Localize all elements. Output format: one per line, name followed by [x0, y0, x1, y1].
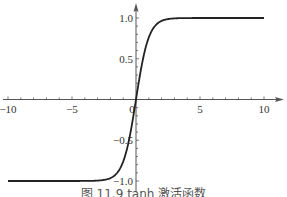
- x-tick-label: −5: [66, 103, 78, 115]
- y-tick-label: 1.0: [119, 12, 133, 24]
- x-tick-label: 10: [259, 103, 271, 115]
- y-tick-label: 0.5: [119, 53, 133, 65]
- x-tick-label: 5: [197, 103, 203, 115]
- figure-caption: 图 11.9 tanh 激活函数: [0, 187, 287, 197]
- y-tick-label: −1.0: [113, 175, 133, 187]
- tanh-chart: −10−50510−1.0−0.50.51.0: [0, 0, 287, 197]
- x-tick-label: −10: [0, 103, 17, 115]
- axes: [3, 3, 284, 192]
